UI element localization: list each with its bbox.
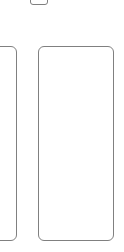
screenshot-canvas (0, 0, 124, 252)
left-card-panel[interactable] (0, 46, 17, 241)
tab-fragment-body (31, 0, 47, 4)
main-card-body (39, 47, 113, 240)
left-card-body (0, 47, 16, 240)
main-card-panel[interactable] (38, 46, 114, 241)
tab-fragment-card[interactable] (30, 0, 48, 5)
